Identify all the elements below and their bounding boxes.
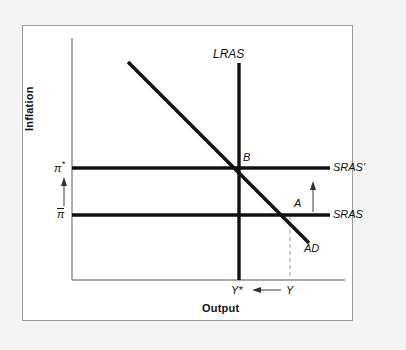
y-star-tick-label: Y* xyxy=(231,285,243,296)
point-b-label: B xyxy=(243,152,250,163)
pi-star-superscript: * xyxy=(61,159,65,169)
x-axis-title: Output xyxy=(202,303,239,314)
sras-prime-curve-label: SRAS' xyxy=(333,162,365,173)
pi-bar-glyph: π xyxy=(57,208,64,220)
sras-shift-arrow-head xyxy=(310,181,316,190)
figure-container: Inflation Output LRAS SRAS' SRAS AD B A … xyxy=(0,0,406,350)
inflation-rise-arrow-head xyxy=(61,177,67,186)
y-axis-title: Inflation xyxy=(24,86,35,131)
y-tick-label: Y xyxy=(286,285,293,296)
output-fall-arrow-head xyxy=(252,287,261,293)
sras-curve-label: SRAS xyxy=(333,209,363,220)
as-ad-diagram-svg xyxy=(0,0,406,350)
pi-star-tick-label: π* xyxy=(54,160,65,174)
point-a-label: A xyxy=(294,198,301,209)
pi-bar-tick-label: π xyxy=(57,208,64,220)
lras-curve-label: LRAS xyxy=(213,48,244,60)
ad-curve-label: AD xyxy=(304,243,319,254)
